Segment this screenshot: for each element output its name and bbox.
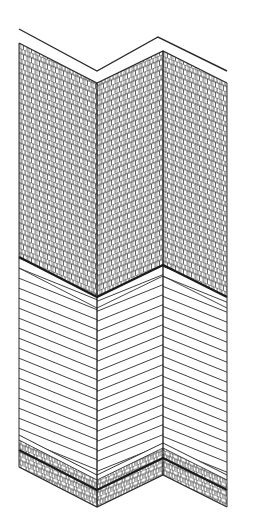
wall-drawing <box>0 0 253 519</box>
wall-diagram: Exterior wall corner elevation <box>0 0 253 519</box>
siding-zone <box>19 257 227 475</box>
shingle-zone <box>19 43 227 297</box>
